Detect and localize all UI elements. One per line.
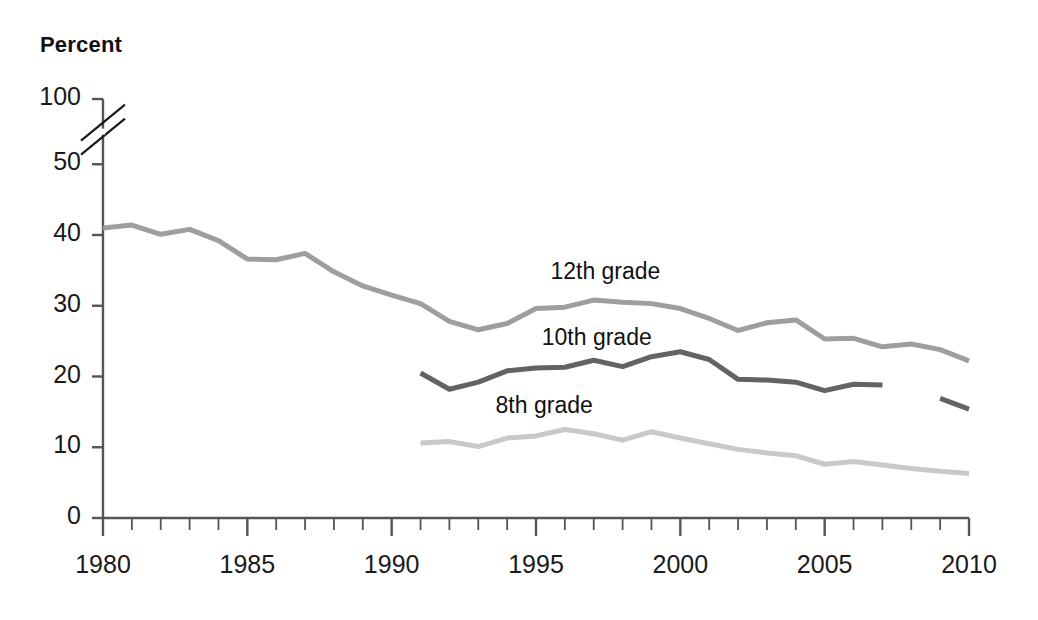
series-line-1: [421, 352, 883, 391]
chart-container: Percent 10050403020100 19801985199019952…: [0, 0, 1038, 620]
x-tick-label: 2005: [780, 550, 870, 579]
y-tick-label: 40: [11, 218, 81, 247]
x-tick-label: 1985: [202, 550, 292, 579]
y-tick-label: 10: [11, 430, 81, 459]
x-tick-label: 1995: [491, 550, 581, 579]
series-line-2: [940, 398, 969, 409]
y-tick-label: 20: [11, 360, 81, 389]
series-label-grade12: 12th grade: [550, 258, 660, 285]
axis-group: [81, 99, 969, 536]
x-tick-label: 2010: [924, 550, 1014, 579]
series-label-grade10: 10th grade: [542, 324, 652, 351]
series-label-grade8: 8th grade: [496, 392, 593, 419]
series-group: [103, 225, 969, 473]
x-tick-label: 1980: [58, 550, 148, 579]
series-line-3: [421, 430, 969, 474]
x-tick-label: 2000: [635, 550, 725, 579]
x-tick-label: 1990: [347, 550, 437, 579]
y-tick-label: 100: [11, 82, 81, 111]
series-line-0: [103, 225, 969, 361]
chart-plot-area: [0, 0, 1038, 620]
y-tick-label: 50: [11, 147, 81, 176]
y-tick-label: 0: [11, 501, 81, 530]
y-tick-label: 30: [11, 289, 81, 318]
